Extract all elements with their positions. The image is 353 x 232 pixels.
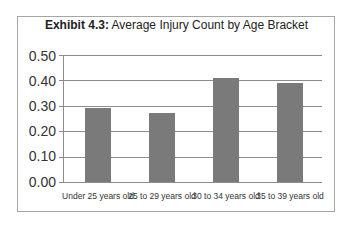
- bar: [277, 83, 303, 182]
- y-tick-label: 0.40: [14, 74, 56, 88]
- y-tick: [59, 131, 63, 132]
- y-tick: [59, 182, 63, 183]
- y-tick-label: 0.30: [14, 99, 56, 113]
- y-tick-label: 0.10: [14, 149, 56, 163]
- bar: [85, 108, 111, 182]
- bar: [213, 78, 239, 182]
- y-tick: [59, 157, 63, 158]
- plot-area: [63, 55, 322, 182]
- x-tick-label: 35 to 39 years old: [250, 191, 330, 201]
- y-tick: [59, 80, 63, 81]
- y-tick-label: 0.50: [14, 49, 56, 63]
- y-tick: [59, 106, 63, 107]
- chart-title-text: Average Injury Count by Age Bracket: [109, 18, 308, 32]
- gridline: [63, 80, 322, 81]
- y-tick-label: 0.20: [14, 124, 56, 138]
- gridline: [63, 55, 322, 56]
- chart-title-exhibit: Exhibit 4.3:: [45, 18, 109, 32]
- chart-title: Exhibit 4.3: Average Injury Count by Age…: [0, 18, 353, 32]
- bar: [149, 113, 175, 182]
- y-tick: [59, 55, 63, 56]
- y-axis-line: [63, 55, 64, 182]
- y-tick-label: 0.00: [14, 175, 56, 189]
